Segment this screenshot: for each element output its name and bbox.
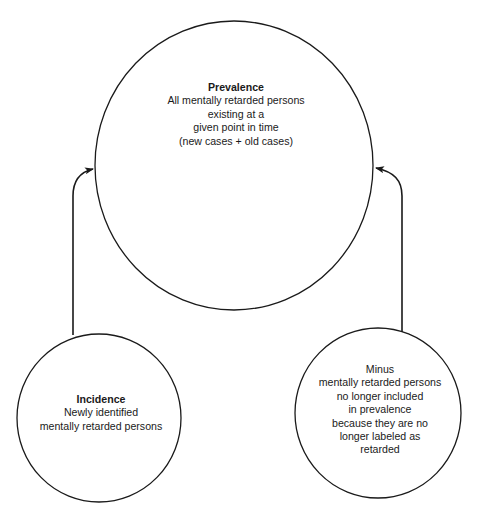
prevalence-line: existing at a — [167, 108, 304, 121]
minus-line: retarded — [319, 443, 441, 456]
incidence-title: Incidence — [40, 393, 162, 406]
incidence-to-prevalence-arrow — [73, 169, 93, 335]
minus-line: mentally retarded persons — [319, 376, 441, 389]
prevalence-circle — [95, 21, 373, 310]
minus-to-prevalence-arrow — [376, 168, 402, 332]
minus-line: Minus — [319, 363, 441, 376]
minus-line: no longer included — [319, 390, 441, 403]
prevalence-title: Prevalence — [167, 81, 304, 94]
incidence-label: Incidence Newly identified mentally reta… — [40, 393, 162, 433]
prevalence-label: Prevalence All mentally retarded persons… — [167, 81, 304, 148]
minus-line: longer labeled as — [319, 430, 441, 443]
prevalence-line: All mentally retarded persons — [167, 94, 304, 107]
prevalence-line: given point in time — [167, 121, 304, 134]
incidence-line: Newly identified — [40, 406, 162, 419]
minus-line: because they are no — [319, 417, 441, 430]
diagram-canvas: Prevalence All mentally retarded persons… — [0, 0, 478, 515]
minus-line: in prevalence — [319, 403, 441, 416]
incidence-line: mentally retarded persons — [40, 420, 162, 433]
minus-label: Minus mentally retarded persons no longe… — [319, 363, 441, 457]
prevalence-line: (new cases + old cases) — [167, 135, 304, 148]
